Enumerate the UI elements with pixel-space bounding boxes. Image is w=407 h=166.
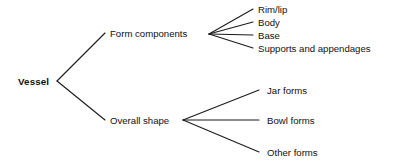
edge-root-to-overall-shape [57,81,105,120]
edge-form-components-to-supports-and-appendages [209,34,253,48]
edge-form-components-to-body [209,22,253,34]
edge-overall-shape-to-jar-forms [183,90,259,120]
node-other-forms: Other forms [267,147,318,158]
node-vessel: Vessel [18,76,49,87]
node-base: Base [258,30,280,41]
edge-root-to-form-components [57,33,105,81]
tree-connector-lines [0,0,407,166]
node-jar-forms: Jar forms [267,85,307,96]
edge-form-components-to-rim-lip [209,9,253,34]
node-supports-and-appendages: Supports and appendages [258,43,371,54]
edge-form-components-to-base [209,34,253,35]
edge-overall-shape-to-other-forms [183,120,259,152]
node-overall-shape: Overall shape [110,115,169,126]
node-body: Body [258,17,280,28]
node-rim-lip: Rim/lip [258,4,287,15]
node-bowl-forms: Bowl forms [267,115,314,126]
vessel-classification-diagram: Vessel Form components Overall shape Rim… [0,0,407,166]
node-form-components: Form components [110,28,187,39]
